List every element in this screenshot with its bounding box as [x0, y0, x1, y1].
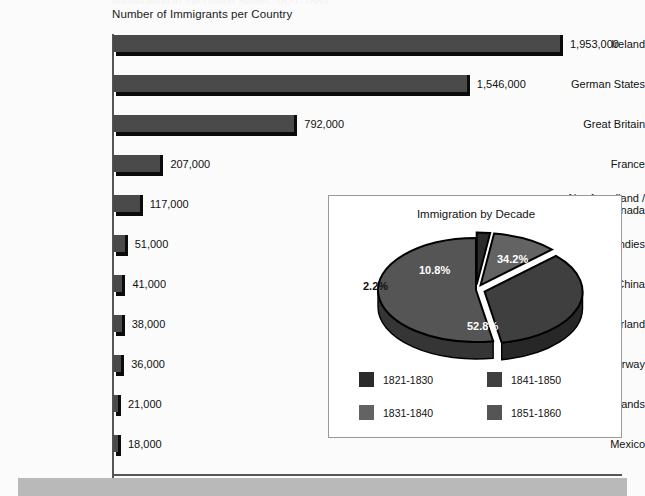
bar-shadow	[116, 412, 121, 416]
legend-swatch	[487, 372, 502, 387]
bar-side-face	[294, 115, 297, 132]
legend-label: 1831-1840	[383, 407, 433, 419]
bar-row: German States1,546,000	[0, 75, 645, 115]
bar-row: Great Britain792,000	[0, 115, 645, 155]
bar-face	[113, 75, 467, 92]
bar-side-face	[125, 235, 128, 252]
bar-face	[113, 275, 122, 292]
bar-shadow	[116, 212, 143, 216]
bar-face	[113, 155, 160, 172]
legend-label: 1841-1850	[511, 374, 561, 386]
bar-value-label: 207,000	[170, 158, 210, 170]
legend-swatch	[487, 405, 502, 420]
bar-row: Ireland1,953,000	[0, 35, 645, 75]
bar-shadow	[116, 92, 470, 96]
bar-shadow	[116, 292, 125, 296]
bar-glyph	[113, 115, 300, 136]
bar-side-face	[118, 435, 121, 452]
bar-side-face	[122, 315, 125, 332]
bar-shadow	[116, 172, 163, 176]
bar-chart-title: Number of Immigrants per Country	[112, 8, 292, 20]
bar-shadow	[116, 252, 128, 256]
bar-side-face	[560, 35, 563, 52]
bottom-color-band	[18, 478, 627, 496]
bar-face	[113, 235, 125, 252]
bar-value-label: 18,000	[128, 438, 162, 450]
legend-item[interactable]: 1851-1860	[487, 405, 561, 420]
bar-face	[113, 315, 122, 332]
bar-value-label: 792,000	[304, 118, 344, 130]
pie-svg	[349, 228, 603, 363]
clipped-header-text: Immigration to the United States, 1821-1…	[112, 0, 542, 4]
bar-glyph	[113, 355, 127, 376]
bar-glyph	[113, 435, 124, 456]
bar-side-face	[467, 75, 470, 92]
bar-shadow	[116, 332, 125, 336]
bar-glyph	[113, 75, 473, 96]
bar-value-label: 51,000	[135, 238, 169, 250]
bar-shadow	[116, 52, 563, 56]
pie-percent-label: 34.2%	[497, 253, 528, 265]
bar-glyph	[113, 395, 124, 416]
bar-glyph	[113, 315, 128, 336]
chart-page: Immigration to the United States, 1821-1…	[0, 0, 645, 496]
bar-glyph	[113, 35, 566, 56]
bar-glyph	[113, 195, 146, 216]
pie-chart-title: Immigration by Decade	[329, 208, 623, 220]
bar-row: Mexico18,000	[0, 435, 645, 475]
bar-shadow	[116, 452, 121, 456]
legend-label: 1851-1860	[511, 407, 561, 419]
bar-side-face	[118, 395, 121, 412]
bar-side-face	[140, 195, 143, 212]
bar-shadow	[116, 372, 124, 376]
bar-side-face	[121, 355, 124, 372]
bar-category-label: Mexico	[541, 438, 645, 451]
bar-face	[113, 115, 294, 132]
bar-category-label: German States	[541, 78, 645, 91]
bar-value-label: 41,000	[132, 278, 166, 290]
bar-glyph	[113, 275, 128, 296]
legend-item[interactable]: 1841-1850	[487, 372, 561, 387]
bar-value-label: 36,000	[131, 358, 165, 370]
legend-item[interactable]: 1821-1830	[359, 372, 433, 387]
legend-item[interactable]: 1831-1840	[359, 405, 433, 420]
legend-swatch	[359, 405, 374, 420]
bar-glyph	[113, 155, 166, 176]
bar-value-label: 21,000	[128, 398, 162, 410]
bar-face	[113, 355, 121, 372]
bar-category-label: France	[541, 158, 645, 171]
pie-chart-graphic: 2.2%10.8%34.2%52.8%	[349, 228, 603, 363]
bar-face	[113, 195, 140, 212]
pie-inset-panel: Immigration by Decade 2.2%10.8%34.2%52.8…	[328, 195, 622, 438]
pie-percent-label: 52.8%	[467, 320, 498, 332]
bar-face	[113, 35, 560, 52]
legend-label: 1821-1830	[383, 374, 433, 386]
bar-value-label: 1,953,000	[570, 38, 619, 50]
pie-percent-label: 2.2%	[363, 280, 388, 292]
bar-value-label: 117,000	[150, 198, 189, 210]
bar-value-label: 1,546,000	[477, 78, 526, 90]
bar-value-label: 38,000	[132, 318, 166, 330]
bar-shadow	[116, 132, 297, 136]
bar-row: France207,000	[0, 155, 645, 195]
bar-side-face	[122, 275, 125, 292]
bar-category-label: Great Britain	[541, 118, 645, 131]
pie-percent-label: 10.8%	[419, 264, 450, 276]
bar-glyph	[113, 235, 131, 256]
bar-side-face	[160, 155, 163, 172]
legend-swatch	[359, 372, 374, 387]
